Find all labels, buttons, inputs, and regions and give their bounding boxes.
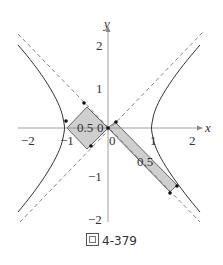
figure-caption: 4-379 <box>0 233 223 248</box>
square-area-label: 0.5 <box>77 120 93 135</box>
hyperbola-left-branch <box>18 45 65 212</box>
x-tick-0: 0 <box>109 133 116 148</box>
figure-icon <box>86 233 99 246</box>
y-axis-label: y <box>102 16 110 31</box>
x-axis-arrow-icon <box>197 126 203 131</box>
x-tick-2: 2 <box>189 133 196 148</box>
y-tick-neg1: −1 <box>88 169 102 184</box>
x-tick-1: 1 <box>150 133 157 148</box>
x-axis-label: x <box>204 120 211 135</box>
hyperbola-diagram: −2 −1 0 1 2 2 1 −1 −2 x y 0.5 0 0.5 <box>0 0 223 232</box>
y-tick-2: 2 <box>96 38 103 53</box>
x-tick-neg1: −1 <box>60 133 74 148</box>
strip-area-label: 0.5 <box>137 154 153 169</box>
origin-label: 0 <box>97 120 104 135</box>
y-tick-neg2: −2 <box>88 212 102 227</box>
caption-number: 4-379 <box>102 234 137 248</box>
y-tick-1: 1 <box>96 81 103 96</box>
x-tick-neg2: −2 <box>21 133 35 148</box>
